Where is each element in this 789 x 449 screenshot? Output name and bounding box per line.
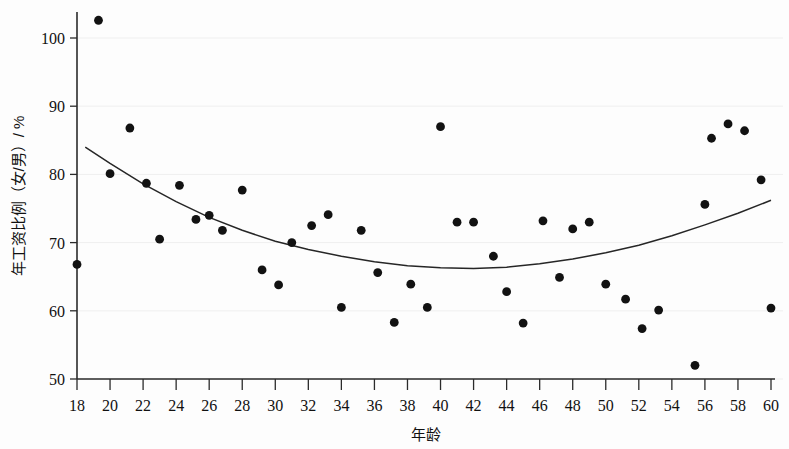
x-tick-label-52: 52 [631,397,647,414]
data-point [757,175,766,184]
x-tick-label-50: 50 [598,397,614,414]
x-tick-label-48: 48 [565,397,581,414]
data-point [192,215,201,224]
data-point [373,268,382,277]
data-point [489,252,498,261]
data-point [238,186,247,195]
data-point [767,304,776,313]
data-point [106,169,115,178]
data-point [707,134,716,143]
x-tick-label-24: 24 [168,397,184,414]
data-point [469,218,478,227]
y-tick-label-90: 90 [49,98,65,115]
y-tick-label-70: 70 [49,235,65,252]
data-point [691,361,700,370]
chart-canvas: 5060708090100 18202224262830323436384042… [0,0,789,449]
data-point [654,306,663,315]
data-point [175,181,184,190]
x-tick-label-18: 18 [69,397,85,414]
data-point [287,238,296,247]
x-tick-label-42: 42 [466,397,482,414]
x-tick-label-54: 54 [664,397,680,414]
data-point [585,218,594,227]
y-tick-label-60: 60 [49,303,65,320]
y-axis-ticks: 5060708090100 [41,30,77,388]
data-point [357,226,366,235]
x-axis-ticks: 1820222426283032343638404244464850525456… [69,379,779,414]
data-point [205,211,214,220]
x-tick-label-32: 32 [300,397,316,414]
data-point [539,216,548,225]
y-tick-label-80: 80 [49,166,65,183]
data-point [73,260,82,269]
quadratic-fit-path [85,147,771,268]
scatter-chart-figure: 5060708090100 18202224262830323436384042… [0,0,789,449]
x-tick-label-46: 46 [532,397,548,414]
x-tick-label-44: 44 [499,397,515,414]
data-point [406,280,415,289]
x-tick-label-60: 60 [763,397,779,414]
data-point [337,303,346,312]
data-point [701,200,710,209]
data-point [555,273,564,282]
x-tick-label-34: 34 [333,397,349,414]
data-point [155,235,164,244]
y-tick-label-100: 100 [41,30,65,47]
x-tick-label-36: 36 [366,397,382,414]
gridlines [77,38,783,379]
data-point [423,303,432,312]
data-point [218,226,227,235]
data-point [453,218,462,227]
x-tick-label-20: 20 [102,397,118,414]
y-tick-label-50: 50 [49,371,65,388]
data-point [142,179,151,188]
data-point [724,120,733,129]
data-point [125,124,134,133]
data-point [621,295,630,304]
y-axis-title: 年工资比例（女/男）/ % [10,116,27,277]
x-tick-label-38: 38 [399,397,415,414]
x-tick-label-26: 26 [201,397,217,414]
data-point [519,319,528,328]
axis-lines [77,12,775,379]
data-point [390,318,399,327]
data-point [502,287,511,296]
x-tick-label-30: 30 [267,397,283,414]
data-points [73,16,776,370]
data-point [568,225,577,234]
data-point [740,126,749,135]
data-point [94,16,103,25]
x-tick-label-40: 40 [433,397,449,414]
x-tick-label-28: 28 [234,397,250,414]
data-point [258,265,267,274]
x-tick-label-22: 22 [135,397,151,414]
x-axis-title: 年龄 [411,426,441,443]
data-point [638,324,647,333]
data-point [307,221,316,230]
fit-curve [85,147,771,268]
x-tick-label-58: 58 [730,397,746,414]
data-point [274,280,283,289]
data-point [601,280,610,289]
x-tick-label-56: 56 [697,397,713,414]
data-point [324,210,333,219]
data-point [436,122,445,131]
